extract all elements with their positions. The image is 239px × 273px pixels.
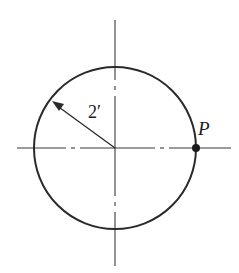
point-p-marker xyxy=(192,144,200,152)
radius-arrow xyxy=(52,101,115,148)
point-label: P xyxy=(198,118,210,140)
diagram-canvas: 2′ P xyxy=(0,0,239,273)
radius-label: 2′ xyxy=(88,102,101,123)
